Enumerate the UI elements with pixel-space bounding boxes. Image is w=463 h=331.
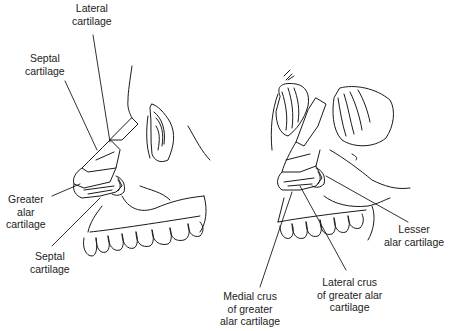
label-septal-cartilage-top: Septal cartilage: [25, 52, 65, 77]
label-greater-alar-cartilage: Greater alar cartilage: [6, 193, 46, 231]
leader-lines: [52, 35, 408, 287]
right-skull-drawing: [271, 70, 410, 240]
label-lateral-cartilage: Lateral cartilage: [72, 2, 112, 27]
left-skull-drawing: [73, 66, 210, 256]
label-lesser-alar-cartilage: Lesser alar cartilage: [384, 223, 444, 248]
skull-illustrations: [0, 0, 463, 331]
label-septal-cartilage-bottom: Septal cartilage: [30, 250, 70, 275]
label-lateral-crus: Lateral crus of greater alar cartilage: [317, 276, 382, 314]
nasal-cartilage-diagram: Lateral cartilage Septal cartilage Great…: [0, 0, 463, 331]
label-medial-crus: Medial crus of greater alar cartilage: [220, 290, 280, 328]
